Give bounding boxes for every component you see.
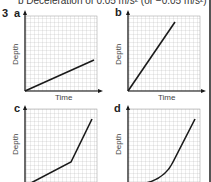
y-axis-label: Depth: [11, 134, 20, 155]
y-axis-label: Depth: [114, 44, 123, 65]
question-number: 3: [2, 7, 8, 19]
panel-c-label: c: [14, 102, 20, 114]
depth-time-graph-a: Depth: [22, 10, 102, 94]
panel-a-label: a: [14, 7, 20, 19]
panel-d-label: d: [114, 102, 121, 114]
depth-time-graph-c: Depth: [22, 105, 102, 182]
page-edge: [209, 0, 211, 182]
x-axis-label-b: Time: [158, 93, 175, 102]
y-axis-label: Depth: [114, 134, 123, 155]
previous-answer-text: b Deceleration of 0.05 m/s² (or −0.05 m/…: [18, 0, 207, 6]
panel-b-label: b: [115, 6, 122, 18]
x-axis-label-a: Time: [55, 93, 72, 102]
y-axis-label: Depth: [11, 44, 20, 65]
depth-time-graph-d: Depth: [125, 105, 205, 182]
depth-time-graph-b: Depth: [125, 10, 205, 94]
